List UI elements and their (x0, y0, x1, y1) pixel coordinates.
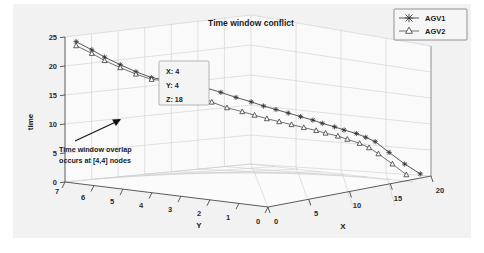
x-tick-15: 15 (394, 194, 402, 203)
x-axis-label: X (340, 222, 346, 231)
datatip-box[interactable]: X: 4 Y: 4 Z: 18 (159, 61, 209, 105)
asterisk-marker (249, 99, 254, 104)
asterisk-marker (332, 124, 337, 129)
asterisk-marker (286, 110, 291, 115)
annotation-line-1: Time window overlap (59, 145, 132, 154)
z-tick-0: 0 (53, 178, 57, 187)
datatip-x: X: 4 (166, 67, 179, 76)
y-tick-2: 2 (197, 209, 201, 218)
asterisk-marker (273, 107, 278, 112)
y-tick-4: 4 (139, 201, 144, 210)
datatip-z: Z: 18 (166, 95, 183, 104)
asterisk-marker (373, 139, 378, 144)
y-axis-label: Y (196, 221, 202, 230)
asterisk-marker (261, 103, 266, 108)
asterisk-marker (298, 114, 303, 119)
asterisk-marker (233, 95, 238, 100)
x-tick-0: 0 (274, 217, 278, 226)
asterisk-marker (218, 90, 223, 95)
y-tick-3: 3 (168, 205, 172, 214)
plot-canvas: 0 5 10 15 20 25 time 7 6 5 4 3 2 1 0 (13, 4, 471, 238)
datatip-y: Y: 4 (166, 81, 179, 90)
z-tick-5: 5 (53, 149, 57, 158)
legend[interactable]: AGV1 AGV2 (394, 9, 467, 40)
asterisk-marker (320, 121, 325, 126)
y-tick-0: 0 (256, 217, 260, 226)
asterisk-marker (354, 131, 359, 136)
asterisk-marker (418, 171, 423, 176)
y-tick-7: 7 (55, 187, 59, 196)
asterisk-marker (402, 161, 407, 166)
y-tick-5: 5 (110, 197, 114, 206)
matlab-figure-panel: 0 5 10 15 20 25 time 7 6 5 4 3 2 1 0 (13, 4, 471, 238)
z-tick-15: 15 (49, 91, 57, 100)
z-axis-label: time (26, 113, 35, 130)
x-tick-10: 10 (353, 201, 361, 210)
legend-label-agv1: AGV1 (425, 14, 445, 23)
y-tick-6: 6 (81, 193, 85, 202)
chart-title: Time window conflict (208, 18, 294, 28)
asterisk-marker (405, 14, 413, 22)
z-tick-10: 10 (49, 120, 57, 129)
x-tick-20: 20 (436, 186, 444, 195)
asterisk-marker (387, 150, 392, 155)
asterisk-marker (310, 118, 315, 123)
annotation-line-2: occurs at [4,4] nodes (59, 156, 131, 165)
z-tick-25: 25 (49, 33, 57, 42)
z-tick-20: 20 (49, 62, 57, 71)
asterisk-marker (363, 135, 368, 140)
y-tick-1: 1 (226, 213, 230, 222)
asterisk-marker (341, 127, 346, 132)
x-tick-5: 5 (314, 209, 318, 218)
legend-label-agv2: AGV2 (425, 27, 445, 36)
